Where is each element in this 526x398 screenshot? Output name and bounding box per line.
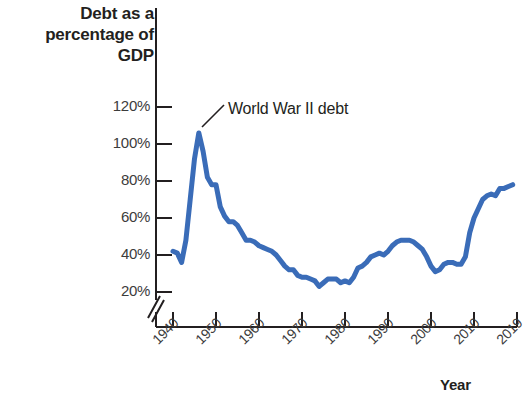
y-tick-label: 80% bbox=[88, 171, 150, 188]
y-tick-label: 40% bbox=[88, 245, 150, 262]
y-axis-ticks bbox=[156, 107, 172, 292]
ww2-debt-annotation: World War II debt bbox=[228, 100, 348, 118]
chart-canvas bbox=[0, 0, 526, 398]
debt-gdp-line-chart: Debt as a percentage of GDP Year bbox=[0, 0, 526, 398]
annotation-leader-line bbox=[202, 105, 224, 127]
y-tick-label: 100% bbox=[88, 134, 150, 151]
y-tick-label: 120% bbox=[88, 97, 150, 114]
debt-series-line bbox=[173, 133, 513, 287]
y-tick-label: 60% bbox=[88, 208, 150, 225]
y-tick-label: 20% bbox=[88, 282, 150, 299]
